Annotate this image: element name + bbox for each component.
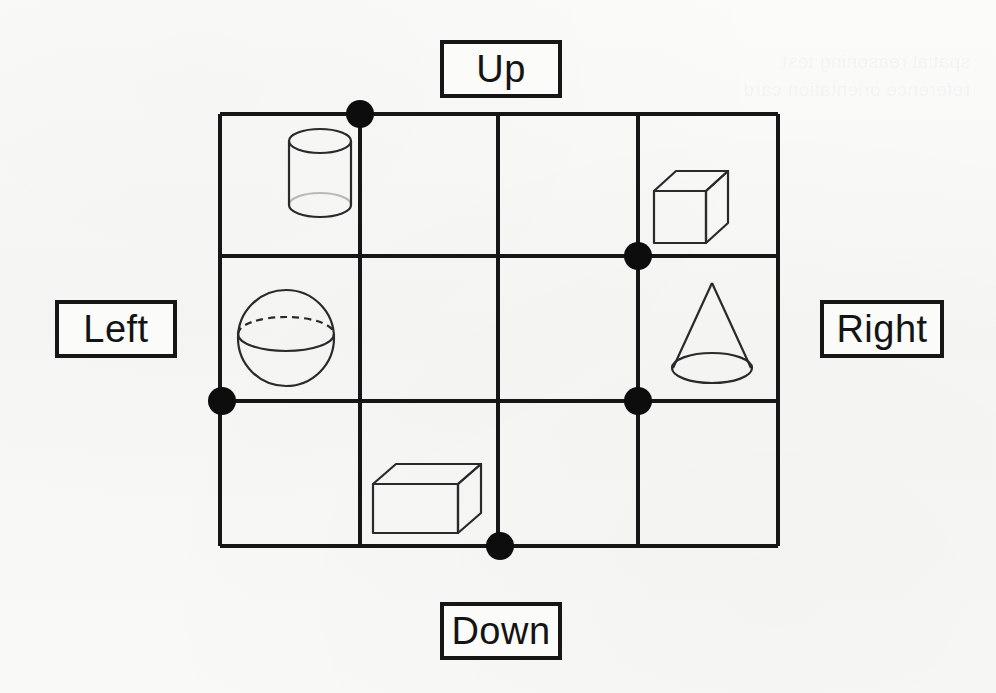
grid-lines — [220, 114, 778, 546]
marker-top — [346, 100, 374, 128]
direction-label-down: Down — [440, 602, 562, 660]
cube-shape — [654, 171, 728, 243]
marker-right-lower — [624, 387, 652, 415]
direction-label-left: Left — [55, 300, 177, 358]
direction-label-right: Right — [820, 300, 944, 358]
marker-right-upper — [624, 242, 652, 270]
marker-dots — [208, 100, 652, 560]
shape-figures — [238, 129, 752, 533]
sphere-shape — [238, 290, 334, 386]
cone-shape — [672, 283, 752, 383]
diagram-page: spatial reasoning test reference orienta… — [0, 0, 996, 693]
cuboid-shape — [373, 464, 481, 533]
marker-bottom — [486, 532, 514, 560]
direction-label-up: Up — [440, 40, 562, 98]
marker-left — [208, 387, 236, 415]
cylinder-shape — [289, 129, 351, 217]
